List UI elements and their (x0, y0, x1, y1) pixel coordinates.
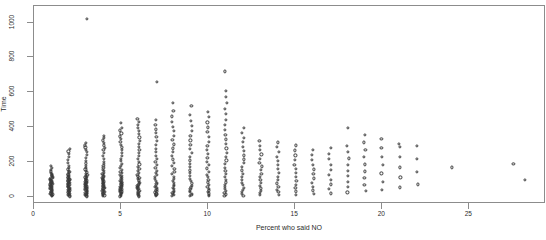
data-point (224, 133, 227, 136)
data-point (346, 180, 349, 183)
data-point (120, 126, 123, 129)
data-point (277, 175, 280, 178)
data-point (329, 146, 332, 149)
data-point (120, 154, 123, 157)
data-point (207, 135, 210, 138)
y-tick-label: 200 (8, 150, 15, 172)
data-point (67, 156, 70, 159)
y-tick-mark (27, 91, 33, 92)
data-point (224, 138, 227, 141)
data-point (347, 157, 350, 160)
data-point (242, 145, 245, 148)
data-point (223, 123, 226, 126)
data-point (223, 162, 226, 165)
plot-frame (33, 5, 545, 203)
data-point (364, 190, 367, 193)
data-point (224, 95, 227, 98)
data-point (224, 128, 227, 131)
data-point (524, 178, 527, 181)
scatter-plot: Time 02004006008001000 0510152025 Percen… (0, 0, 546, 240)
data-point (363, 177, 366, 180)
data-point (260, 165, 263, 168)
x-axis-title: Percent who said NO (256, 224, 322, 231)
data-point (189, 113, 192, 116)
data-point (172, 161, 175, 164)
data-point (207, 178, 210, 181)
data-point (311, 185, 314, 188)
data-point (312, 172, 315, 175)
data-point (206, 153, 209, 156)
data-point (380, 137, 383, 140)
data-point (138, 163, 141, 166)
data-point (293, 163, 296, 166)
data-point (346, 169, 349, 172)
data-point (155, 139, 158, 142)
data-point (154, 147, 157, 150)
data-point (363, 141, 366, 144)
data-point (364, 163, 367, 166)
data-point (225, 118, 228, 121)
x-tick-label: 25 (465, 210, 472, 217)
data-point (120, 157, 123, 160)
data-point (225, 147, 228, 150)
data-point (312, 192, 315, 195)
data-point (190, 129, 193, 132)
data-point (399, 176, 402, 179)
data-point (189, 134, 192, 137)
x-tick-mark (294, 203, 295, 209)
data-point (363, 156, 366, 159)
x-tick-label: 20 (378, 210, 385, 217)
data-point (417, 183, 420, 186)
data-point (363, 183, 366, 186)
data-point (155, 128, 158, 131)
data-point (223, 70, 226, 73)
data-point (171, 115, 174, 118)
data-point (138, 129, 141, 132)
data-point (224, 113, 227, 116)
data-point (258, 149, 261, 152)
data-point (155, 135, 158, 138)
data-point (380, 172, 383, 175)
y-tick-mark (27, 126, 33, 127)
data-point (154, 124, 157, 127)
data-point (329, 168, 332, 171)
data-point (171, 125, 174, 128)
data-point (329, 163, 332, 166)
data-point (364, 133, 367, 136)
data-point (206, 126, 209, 129)
data-point (312, 163, 315, 166)
data-point (189, 143, 192, 146)
y-axis-title: Time (0, 96, 7, 111)
data-point (207, 170, 210, 173)
data-point (312, 168, 315, 171)
data-point (327, 158, 330, 161)
data-point (190, 125, 193, 128)
data-point (242, 136, 245, 139)
data-point (294, 183, 297, 186)
data-point (277, 193, 280, 196)
data-points-layer (34, 6, 544, 202)
data-point (189, 147, 192, 150)
x-tick-mark (33, 203, 34, 209)
data-point (328, 187, 331, 190)
x-tick-mark (207, 203, 208, 209)
data-point (172, 134, 175, 137)
data-point (415, 157, 418, 160)
data-point (138, 148, 141, 151)
data-point (67, 164, 70, 167)
data-point (155, 164, 158, 167)
data-point (206, 149, 209, 152)
data-point (329, 192, 332, 195)
data-point (398, 145, 401, 148)
data-point (242, 158, 245, 161)
data-point (294, 149, 297, 152)
data-point (346, 175, 349, 178)
y-tick-label: 600 (8, 80, 15, 102)
data-point (206, 110, 209, 113)
data-point (189, 120, 192, 123)
data-point (173, 170, 176, 173)
data-point (138, 154, 141, 157)
data-point (381, 180, 384, 183)
data-point (154, 143, 157, 146)
data-point (225, 151, 228, 154)
